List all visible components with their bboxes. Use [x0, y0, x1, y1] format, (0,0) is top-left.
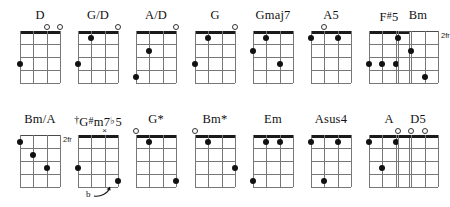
open-string-icon	[114, 23, 122, 31]
muted-string-icon: ×	[101, 127, 109, 135]
string-line	[351, 135, 352, 187]
bend-annotation-label: b	[86, 189, 91, 199]
fret-line	[195, 148, 235, 149]
finger-dot	[335, 139, 341, 145]
fret-line	[136, 70, 176, 71]
chord-name: Gmaj7	[245, 8, 301, 23]
finger-dot	[44, 165, 50, 171]
string-line	[369, 31, 370, 83]
chord-name: D	[12, 8, 68, 23]
finger-dot	[263, 35, 269, 41]
fret-line	[311, 83, 351, 84]
string-line	[382, 31, 383, 83]
finger-dot	[277, 139, 283, 145]
finger-dot	[17, 139, 23, 145]
finger-dot	[395, 35, 401, 41]
chord-name: G*	[128, 112, 184, 127]
finger-dot	[366, 61, 372, 67]
fretboard-grid	[78, 135, 118, 187]
finger-dot	[205, 35, 211, 41]
finger-dot	[308, 35, 314, 41]
fret-line	[20, 57, 60, 58]
fret-line	[78, 148, 118, 149]
chord-diagram: G	[187, 8, 243, 83]
fretboard-grid	[195, 135, 235, 187]
fretboard-grid	[136, 135, 176, 187]
chord-diagram: D	[12, 8, 68, 83]
finger-dot	[192, 61, 198, 67]
chord-name: Bm/A	[12, 112, 68, 127]
chord-diagram: †G#m7♭5×b	[70, 112, 126, 187]
chord-diagram: A5	[303, 8, 359, 83]
fret-line	[253, 187, 293, 188]
fret-line	[253, 161, 293, 162]
fretboard-grid: 2fr	[398, 31, 438, 83]
string-line	[78, 135, 79, 187]
chord-diagram: Gmaj7	[245, 8, 301, 83]
chord-diagram: Bm2fr	[390, 8, 446, 83]
fret-line	[398, 161, 438, 162]
nut-bar	[78, 135, 118, 138]
fret-line	[78, 83, 118, 84]
chord-diagram: Bm/A2fr	[12, 112, 68, 187]
open-string-icon	[407, 127, 415, 135]
string-line	[105, 31, 106, 83]
fret-line	[136, 161, 176, 162]
string-markers	[20, 127, 60, 135]
finger-dot	[133, 74, 139, 80]
string-line	[398, 135, 399, 187]
fretboard-grid	[136, 31, 176, 83]
fretboard-grid	[311, 31, 351, 83]
finger-dot	[422, 74, 428, 80]
string-line	[33, 31, 34, 83]
fretboard-grid: 2fr	[20, 135, 60, 187]
chord-diagram: G/D	[70, 8, 126, 83]
chord-name: Bm	[390, 8, 446, 23]
finger-dot	[75, 165, 81, 171]
finger-dot	[335, 35, 341, 41]
string-line	[293, 135, 294, 187]
string-line	[438, 135, 439, 187]
open-string-icon	[421, 127, 429, 135]
chord-diagram: G*	[128, 112, 184, 187]
finger-dot	[250, 48, 256, 54]
string-line	[438, 31, 439, 83]
finger-dot	[75, 61, 81, 67]
fret-line	[78, 70, 118, 71]
finger-dot	[146, 48, 152, 54]
finger-dot	[146, 139, 152, 145]
fret-line	[195, 44, 235, 45]
string-markers	[398, 127, 438, 135]
chord-name: Em	[245, 112, 301, 127]
fret-line	[20, 161, 60, 162]
fret-line	[398, 83, 438, 84]
fret-line	[253, 148, 293, 149]
finger-dot	[205, 139, 211, 145]
finger-dot	[277, 61, 283, 67]
finger-dot	[366, 139, 372, 145]
fretboard-grid	[253, 31, 293, 83]
chord-name: G/D	[70, 8, 126, 23]
string-markers	[311, 23, 351, 31]
nut-bar	[253, 31, 293, 34]
fret-line	[398, 174, 438, 175]
chord-name: Asus4	[303, 112, 359, 127]
nut-bar	[20, 31, 60, 34]
open-string-icon	[394, 127, 402, 135]
fret-line	[20, 70, 60, 71]
string-markers	[136, 23, 176, 31]
fret-line	[20, 148, 60, 149]
fret-line	[311, 174, 351, 175]
nut-bar	[311, 31, 351, 34]
finger-dot	[232, 165, 238, 171]
bend-arrow-icon	[92, 185, 116, 199]
fret-line	[398, 148, 438, 149]
string-markers	[253, 127, 293, 135]
finger-dot	[408, 48, 414, 54]
open-string-icon	[172, 23, 180, 31]
nut-bar	[78, 31, 118, 34]
fret-line	[398, 70, 438, 71]
chord-name: Bm*	[187, 112, 243, 127]
fret-line	[136, 57, 176, 58]
